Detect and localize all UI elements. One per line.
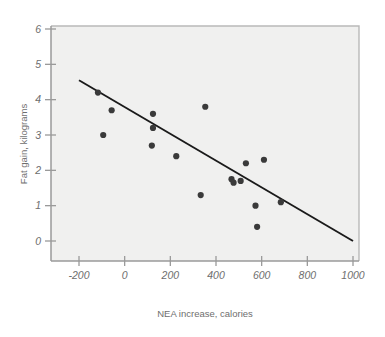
chart-canvas: -20002004006008001000 0123456 NEA increa… [0, 0, 385, 337]
x-tick-label: 0 [122, 269, 128, 281]
y-axis-title: Fat gain, kilograms [18, 104, 29, 185]
y-tick-label: 2 [34, 164, 41, 176]
y-tick-label: 5 [35, 58, 41, 70]
data-point [173, 153, 179, 159]
data-point [109, 107, 115, 113]
data-point [261, 157, 267, 163]
x-tick-label: 200 [161, 269, 180, 281]
x-tick-label: -200 [68, 269, 89, 281]
x-axis-title: NEA increase, calories [157, 308, 253, 319]
data-point [150, 125, 156, 131]
y-tick-label: 0 [35, 235, 41, 247]
x-tick-label: 400 [207, 269, 225, 281]
y-tick-label: 1 [35, 199, 41, 211]
x-tick-label: 800 [299, 269, 317, 281]
data-point [149, 143, 155, 149]
y-axis-tick-labels: 0123456 [34, 23, 41, 247]
data-point [252, 203, 258, 209]
data-point [238, 178, 244, 184]
data-point [100, 132, 106, 138]
scatter-plot-figure: -20002004006008001000 0123456 NEA increa… [0, 0, 385, 337]
plot-area-background [51, 26, 359, 261]
data-point [95, 90, 101, 96]
y-tick-label: 3 [35, 129, 41, 141]
data-point [202, 104, 208, 110]
data-point [198, 192, 204, 198]
x-axis-tick-labels: -20002004006008001000 [68, 269, 364, 281]
data-point [278, 199, 284, 205]
x-tick-label: 1000 [341, 269, 365, 281]
x-tick-label: 600 [253, 269, 271, 281]
data-point [150, 111, 156, 117]
y-tick-label: 4 [35, 93, 41, 105]
data-point [243, 160, 249, 166]
y-tick-label: 6 [35, 23, 41, 35]
data-point [230, 180, 236, 186]
data-point [254, 224, 260, 230]
